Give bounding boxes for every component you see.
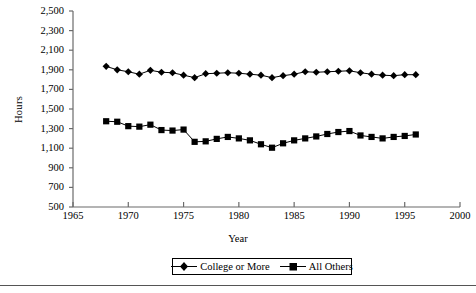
data-point-marker xyxy=(235,70,242,77)
data-point-marker xyxy=(402,133,408,139)
footer-rule xyxy=(0,285,476,286)
data-point-marker xyxy=(335,129,341,135)
data-point-marker xyxy=(313,69,320,76)
data-point-marker xyxy=(302,135,308,141)
data-point-marker xyxy=(158,69,165,76)
data-point-marker xyxy=(169,69,176,76)
data-point-marker xyxy=(412,71,419,78)
data-point-marker xyxy=(379,72,386,79)
data-point-marker xyxy=(346,128,352,134)
data-point-marker xyxy=(280,140,286,146)
data-point-marker xyxy=(246,71,253,78)
legend-marker-diamond-icon xyxy=(171,261,197,272)
plot-area xyxy=(0,0,476,293)
data-point-marker xyxy=(291,71,298,78)
data-point-marker xyxy=(125,68,132,75)
data-point-marker xyxy=(114,66,121,73)
data-point-marker xyxy=(191,74,198,81)
data-point-marker xyxy=(203,138,209,144)
data-point-marker xyxy=(269,145,275,151)
data-point-marker xyxy=(225,134,231,140)
data-point-marker xyxy=(136,71,143,78)
data-point-marker xyxy=(380,135,386,141)
data-point-marker xyxy=(413,131,419,137)
data-point-marker xyxy=(324,131,330,137)
data-point-marker xyxy=(125,123,131,129)
data-point-marker xyxy=(158,127,164,133)
data-point-marker xyxy=(136,124,142,130)
data-point-marker xyxy=(114,119,120,125)
data-point-marker xyxy=(357,69,364,76)
legend-item-all-others: All Others xyxy=(280,261,353,272)
data-point-marker xyxy=(268,74,275,81)
legend-label-college-or-more: College or More xyxy=(200,261,269,272)
data-point-marker xyxy=(192,139,198,145)
data-point-marker xyxy=(258,141,264,147)
data-point-marker xyxy=(324,68,331,75)
data-point-marker xyxy=(103,63,110,70)
chart-legend: College or More All Others xyxy=(172,258,352,275)
data-point-marker xyxy=(313,133,319,139)
legend-item-college-or-more: College or More xyxy=(171,261,269,272)
data-point-marker xyxy=(180,72,187,79)
data-point-marker xyxy=(279,72,286,79)
data-point-marker xyxy=(346,67,353,74)
data-point-marker xyxy=(368,134,374,140)
data-point-marker xyxy=(257,72,264,79)
data-point-marker xyxy=(391,134,397,140)
data-point-marker xyxy=(401,71,408,78)
data-point-marker xyxy=(202,70,209,77)
data-point-marker xyxy=(213,70,220,77)
data-point-marker xyxy=(390,72,397,79)
data-point-marker xyxy=(224,69,231,76)
data-point-marker xyxy=(291,137,297,143)
data-point-marker xyxy=(169,127,175,133)
data-point-marker xyxy=(236,135,242,141)
data-point-marker xyxy=(103,118,109,124)
legend-label-all-others: All Others xyxy=(309,261,353,272)
legend-marker-square-icon xyxy=(280,261,306,272)
data-series-group xyxy=(103,63,420,151)
data-point-marker xyxy=(180,126,186,132)
data-point-marker xyxy=(357,132,363,138)
data-point-marker xyxy=(247,137,253,143)
data-point-marker xyxy=(147,67,154,74)
data-point-marker xyxy=(368,71,375,78)
data-point-marker xyxy=(335,68,342,75)
data-point-marker xyxy=(302,68,309,75)
axes-lines xyxy=(69,11,460,207)
data-point-marker xyxy=(147,122,153,128)
data-point-marker xyxy=(214,136,220,142)
chart-figure: Hours 5007009001,1001,3001,5001,7001,900… xyxy=(0,0,476,293)
